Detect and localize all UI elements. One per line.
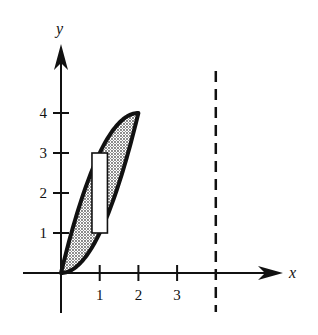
x-axis-label: x [288,264,296,281]
y-tick-label: 2 [40,185,48,201]
x-ticks: 123 [96,265,181,303]
x-tick-label: 3 [173,287,181,303]
x-tick-label: 2 [135,287,143,303]
y-tick-label: 1 [40,225,48,241]
x-tick-label: 1 [96,287,104,303]
y-tick-label: 3 [40,145,48,161]
y-tick-label: 4 [40,105,48,121]
y-ticks: 1234 [40,105,70,241]
diagram-canvas: 123 1234 x y [0,0,318,335]
y-axis-label: y [54,20,64,38]
representative-rectangle [92,153,107,233]
